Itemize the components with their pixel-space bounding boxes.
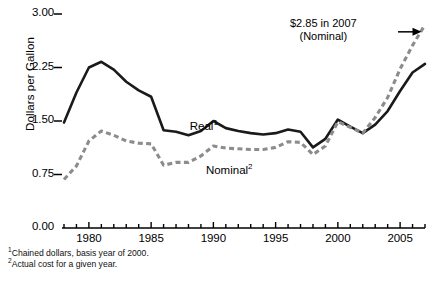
peak-callout-annotation: $2.85 in 2007 (Nominal) xyxy=(290,17,357,43)
series-label-nominal: Nominal2 xyxy=(206,164,253,176)
series-line-nominal xyxy=(64,25,425,180)
peak-callout-line1: $2.85 in 2007 xyxy=(290,17,357,30)
series-label-real-footnote-marker: 1 xyxy=(213,118,217,127)
series-label-nominal-text: Nominal xyxy=(206,164,248,176)
series-label-real-text: Real xyxy=(190,120,214,132)
plot-area xyxy=(0,0,438,289)
gasoline-price-chart: Dollars per Gallon 0.00 0.75 1.50 2.25 3… xyxy=(0,0,438,289)
footnote-2: 2Actual cost for a given year. xyxy=(8,259,149,270)
series-label-nominal-footnote-marker: 2 xyxy=(248,162,252,171)
footnote-1-text: Chained dollars, basis year of 2000. xyxy=(12,248,149,258)
footnotes: 1Chained dollars, basis year of 2000. 2A… xyxy=(8,248,149,269)
data-series xyxy=(64,25,425,180)
peak-callout-line2: (Nominal) xyxy=(290,30,357,43)
footnote-2-text: Actual cost for a given year. xyxy=(12,259,118,269)
footnote-1: 1Chained dollars, basis year of 2000. xyxy=(8,248,149,259)
series-label-real: Real1 xyxy=(190,120,218,132)
axes xyxy=(54,14,425,228)
series-line-real xyxy=(64,62,425,148)
